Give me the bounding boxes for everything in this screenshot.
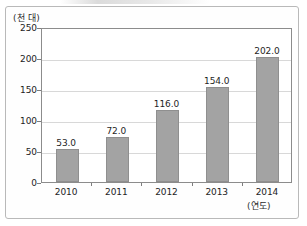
x-axis-unit-label: (연도) <box>247 199 271 212</box>
bar <box>156 110 179 182</box>
x-axis-tick-mark <box>242 183 243 186</box>
y-axis-tick-mark <box>37 152 41 153</box>
bar <box>256 57 279 182</box>
x-axis-tick-label: 2014 <box>256 187 279 197</box>
bar-value-label: 154.0 <box>204 76 229 86</box>
y-axis-tick-label: 100 <box>11 116 37 126</box>
y-axis-tick-label: 250 <box>11 23 37 33</box>
y-axis-tick-label: 150 <box>11 85 37 95</box>
y-axis-labels: 050100150200250 <box>8 28 37 183</box>
x-axis-tick-label: 2013 <box>205 187 228 197</box>
x-axis-tick-mark <box>192 183 193 186</box>
scan-artifact <box>60 0 210 4</box>
y-axis-tick-label: 200 <box>11 54 37 64</box>
y-axis-tick-label: 0 <box>11 178 37 188</box>
bar-value-label: 202.0 <box>254 46 279 56</box>
x-axis-tick-mark <box>141 183 142 186</box>
y-axis-tick-mark <box>37 28 41 29</box>
y-axis-tick-mark <box>37 59 41 60</box>
y-axis-tick-mark <box>37 121 41 122</box>
x-axis-tick-label: 2012 <box>155 187 178 197</box>
bar-value-label: 53.0 <box>56 138 76 148</box>
bar <box>106 137 129 182</box>
bar-value-label: 72.0 <box>106 126 126 136</box>
bar <box>206 87 229 182</box>
bar-value-label: 116.0 <box>154 99 179 109</box>
bar-chart-figure: (천 대) 53.072.0116.0154.0202.0 0501001502… <box>0 0 307 226</box>
bar <box>56 149 79 182</box>
x-axis-tick-label: 2011 <box>105 187 128 197</box>
y-axis-ticks <box>37 28 42 183</box>
x-axis-tick-mark <box>91 183 92 186</box>
x-axis-tick-label: 2010 <box>55 187 78 197</box>
y-axis-tick-mark <box>37 90 41 91</box>
y-axis-tick-label: 50 <box>11 147 37 157</box>
